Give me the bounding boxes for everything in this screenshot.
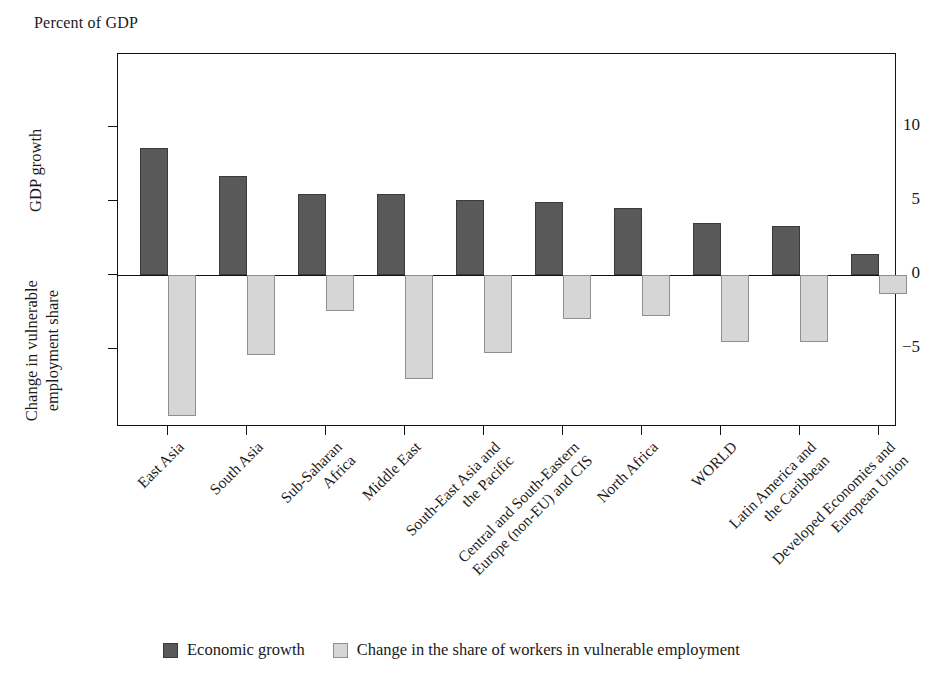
legend: Economic growthChange in the share of wo… <box>163 640 740 660</box>
figure-chart-gdp-growth-vulnerable-employment: Percent of GDP GDP growth Change in vuln… <box>0 0 928 675</box>
x-axis-tick <box>325 426 326 435</box>
y-axis-title-line1: Change in vulnerable <box>22 280 41 421</box>
bar-vulnerable-employment-change <box>642 275 670 316</box>
legend-item: Change in the share of workers in vulner… <box>333 640 740 660</box>
x-axis-category-label-line: North Africa <box>593 438 661 506</box>
x-axis-tick <box>246 426 247 435</box>
bar-economic-growth <box>772 226 800 275</box>
bar-economic-growth <box>219 176 247 275</box>
x-axis-category-label-line: WORLD <box>688 438 740 490</box>
x-axis-tick <box>167 426 168 435</box>
y-axis-tick <box>108 200 117 201</box>
x-axis-category-label-line: South Asia <box>206 438 266 498</box>
bar-vulnerable-employment-change <box>405 275 433 379</box>
bar-vulnerable-employment-change <box>484 275 512 353</box>
legend-swatch-icon <box>163 643 178 658</box>
x-axis-tick <box>641 426 642 435</box>
bar-vulnerable-employment-change <box>879 275 907 294</box>
bar-vulnerable-employment-change <box>721 275 749 342</box>
x-axis-tick <box>404 426 405 435</box>
x-axis-tick <box>878 426 879 435</box>
unit-caption: Percent of GDP <box>34 14 138 32</box>
x-axis-tick <box>562 426 563 435</box>
bar-economic-growth <box>377 194 405 275</box>
bar-economic-growth <box>693 223 721 275</box>
x-axis-tick <box>483 426 484 435</box>
y-axis-tick <box>108 348 117 349</box>
bar-economic-growth <box>851 254 879 275</box>
bar-economic-growth <box>298 194 326 275</box>
bar-vulnerable-employment-change <box>168 275 196 416</box>
bar-economic-growth <box>535 202 563 275</box>
x-axis-tick <box>799 426 800 435</box>
legend-label: Economic growth <box>187 640 305 660</box>
bar-vulnerable-employment-change <box>563 275 591 319</box>
bar-economic-growth <box>140 148 168 275</box>
legend-swatch-icon <box>333 643 348 658</box>
legend-label: Change in the share of workers in vulner… <box>357 640 740 660</box>
y-axis-title-line2: employment share <box>43 290 62 411</box>
plot-area <box>117 53 896 426</box>
y-axis-tick <box>108 126 117 127</box>
x-axis-category-label-line: East Asia <box>134 438 187 491</box>
bar-economic-growth <box>456 200 484 275</box>
x-axis-tick <box>720 426 721 435</box>
y-axis-title-vulnerable-employment: Change in vulnerable employment share <box>22 246 63 456</box>
x-axis-category-label-line: Middle East <box>359 438 424 503</box>
y-axis-tick <box>108 274 117 275</box>
bar-economic-growth <box>614 208 642 275</box>
legend-item: Economic growth <box>163 640 305 660</box>
bar-vulnerable-employment-change <box>800 275 828 342</box>
bar-vulnerable-employment-change <box>326 275 354 311</box>
bar-vulnerable-employment-change <box>247 275 275 355</box>
y-axis-title-gdp-growth: GDP growth <box>26 90 47 250</box>
